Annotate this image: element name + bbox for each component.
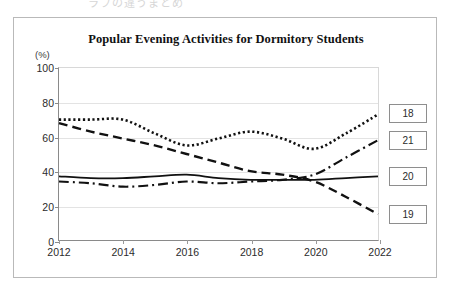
y-axis-tick-label: 40	[42, 166, 54, 178]
y-axis-tick-label: 80	[42, 97, 54, 109]
x-axis-tick-mark	[123, 240, 124, 244]
legend-item-21[interactable]: 21	[389, 131, 427, 150]
y-axis-tick-label: 100	[36, 62, 54, 74]
plot-area: 020406080100 201220142016201820202022	[58, 67, 379, 241]
series-line-19	[59, 123, 378, 214]
x-axis-tick-mark	[187, 240, 188, 244]
x-axis-tick-label: 2018	[240, 246, 263, 258]
page-top-text-fragment: ラフの違うまとめ	[88, 0, 184, 10]
series-lines-group	[59, 68, 378, 240]
legend-item-20[interactable]: 20	[389, 167, 427, 186]
chart-title: Popular Evening Activities for Dormitory…	[14, 32, 438, 47]
chart-figure-container: Popular Evening Activities for Dormitory…	[13, 17, 437, 278]
y-axis-tick-label: 20	[42, 201, 54, 213]
x-axis-tick-mark	[252, 240, 253, 244]
y-axis-tick-label: 60	[42, 132, 54, 144]
x-axis-tick-mark	[316, 240, 317, 244]
legend-item-18[interactable]: 18	[389, 104, 427, 123]
legend-item-19[interactable]: 19	[389, 205, 427, 224]
y-axis-unit-label: (%)	[35, 49, 50, 60]
x-axis-tick-label: 2014	[112, 246, 135, 258]
x-axis-tick-label: 2022	[368, 246, 391, 258]
x-axis-tick-label: 2020	[304, 246, 327, 258]
series-line-18	[59, 114, 378, 148]
x-axis-tick-mark	[380, 240, 381, 244]
series-line-20	[59, 175, 378, 180]
x-axis-tick-label: 2012	[47, 246, 70, 258]
x-axis-tick-label: 2016	[176, 246, 199, 258]
x-axis-tick-mark	[59, 240, 60, 244]
